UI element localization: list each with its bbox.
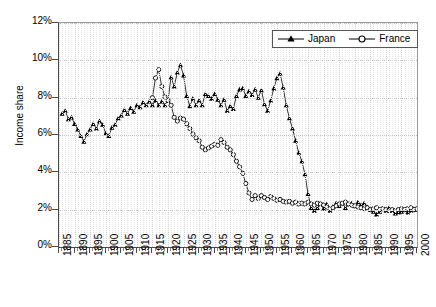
gridline-vertical bbox=[224, 23, 225, 247]
x-tick-mark bbox=[245, 248, 246, 253]
x-tick-mark bbox=[291, 248, 292, 253]
gridline-vertical bbox=[174, 23, 175, 247]
x-tick-label: 1965 bbox=[311, 234, 322, 256]
y-tick-mark bbox=[52, 246, 58, 247]
x-tick-mark bbox=[120, 248, 121, 253]
gridline-vertical bbox=[299, 23, 300, 247]
gridline-vertical bbox=[149, 23, 150, 247]
gridline-vertical bbox=[165, 23, 166, 247]
gridline-vertical bbox=[373, 23, 374, 247]
gridline-vertical bbox=[283, 23, 284, 247]
y-tick-label: 10% bbox=[20, 52, 52, 63]
gridline-vertical bbox=[296, 23, 297, 247]
x-tick-label: 1950 bbox=[264, 234, 275, 256]
y-tick-label: 4% bbox=[20, 164, 52, 175]
x-tick-mark bbox=[400, 248, 401, 253]
y-tick-mark bbox=[52, 134, 58, 135]
gridline-vertical bbox=[349, 23, 350, 247]
gridline-vertical bbox=[193, 23, 194, 247]
x-tick-label: 1930 bbox=[202, 234, 213, 256]
gridline-vertical bbox=[99, 23, 100, 247]
y-tick-mark bbox=[52, 97, 58, 98]
gridline-vertical bbox=[171, 23, 172, 247]
filled-triangle-icon bbox=[278, 34, 304, 44]
gridline-vertical bbox=[84, 23, 85, 247]
x-tick-label: 1955 bbox=[280, 234, 291, 256]
gridline-vertical bbox=[345, 23, 346, 247]
gridline-vertical bbox=[187, 23, 188, 247]
x-tick-label: 1935 bbox=[218, 234, 229, 256]
x-tick-label: 1945 bbox=[249, 234, 260, 256]
gridline-vertical bbox=[320, 23, 321, 247]
x-tick-mark bbox=[369, 248, 370, 253]
open-circle-icon bbox=[349, 34, 375, 44]
gridline-vertical bbox=[370, 23, 371, 247]
gridline-vertical bbox=[383, 23, 384, 247]
gridline-vertical bbox=[162, 23, 163, 247]
legend-label-france: France bbox=[379, 34, 410, 44]
x-tick-mark bbox=[105, 248, 106, 253]
gridline-vertical bbox=[121, 23, 122, 247]
gridline-vertical bbox=[274, 23, 275, 247]
gridline-vertical bbox=[324, 23, 325, 247]
y-tick-label: 8% bbox=[20, 90, 52, 101]
gridline-vertical bbox=[302, 23, 303, 247]
x-tick-mark bbox=[307, 248, 308, 253]
gridline-vertical bbox=[358, 23, 359, 247]
gridline-vertical bbox=[336, 23, 337, 247]
gridline-vertical bbox=[389, 23, 390, 247]
plot-area bbox=[58, 22, 418, 248]
gridline-vertical bbox=[342, 23, 343, 247]
gridline-vertical bbox=[221, 23, 222, 247]
x-tick-label: 1900 bbox=[109, 234, 120, 256]
gridline-vertical bbox=[146, 23, 147, 247]
gridline-vertical bbox=[177, 23, 178, 247]
y-axis-title: Income share bbox=[14, 61, 25, 171]
gridline-vertical bbox=[118, 23, 119, 247]
gridline-vertical bbox=[68, 23, 69, 247]
x-tick-mark bbox=[198, 248, 199, 253]
x-tick-label: 1925 bbox=[187, 234, 198, 256]
x-tick-label: 1895 bbox=[93, 234, 104, 256]
x-tick-label: 1910 bbox=[140, 234, 151, 256]
gridline-vertical bbox=[240, 23, 241, 247]
x-tick-label: 1915 bbox=[155, 234, 166, 256]
x-tick-mark bbox=[151, 248, 152, 253]
gridline-vertical bbox=[127, 23, 128, 247]
gridline-vertical bbox=[405, 23, 406, 247]
x-tick-mark bbox=[323, 248, 324, 253]
gridline-vertical bbox=[280, 23, 281, 247]
gridline-vertical bbox=[339, 23, 340, 247]
y-tick-label: 6% bbox=[20, 127, 52, 138]
gridline-vertical bbox=[264, 23, 265, 247]
gridline-vertical bbox=[180, 23, 181, 247]
gridline-vertical bbox=[292, 23, 293, 247]
x-tick-mark bbox=[214, 248, 215, 253]
x-tick-label: 1940 bbox=[233, 234, 244, 256]
y-tick-mark bbox=[52, 171, 58, 172]
gridline-vertical bbox=[78, 23, 79, 247]
gridline-vertical bbox=[414, 23, 415, 247]
gridline-vertical bbox=[208, 23, 209, 247]
gridline-vertical bbox=[137, 23, 138, 247]
gridline-vertical bbox=[236, 23, 237, 247]
gridline-vertical bbox=[218, 23, 219, 247]
gridline-vertical bbox=[59, 23, 60, 247]
x-tick-mark bbox=[385, 248, 386, 253]
gridline-vertical bbox=[168, 23, 169, 247]
x-tick-mark bbox=[416, 248, 417, 253]
gridline-vertical bbox=[215, 23, 216, 247]
gridline-vertical bbox=[380, 23, 381, 247]
y-tick-mark bbox=[52, 59, 58, 60]
gridline-vertical bbox=[392, 23, 393, 247]
gridline-vertical bbox=[87, 23, 88, 247]
gridline-vertical bbox=[401, 23, 402, 247]
gridline-vertical bbox=[333, 23, 334, 247]
legend-label-japan: Japan bbox=[308, 34, 335, 44]
x-tick-label: 1990 bbox=[389, 234, 400, 256]
gridlines bbox=[59, 23, 417, 247]
y-tick-mark bbox=[52, 209, 58, 210]
x-tick-mark bbox=[74, 248, 75, 253]
gridline-vertical bbox=[90, 23, 91, 247]
x-tick-mark bbox=[89, 248, 90, 253]
